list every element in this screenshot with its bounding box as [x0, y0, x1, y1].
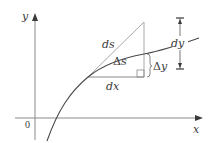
dy-label: dy: [171, 37, 185, 50]
x-axis-label: x: [193, 123, 200, 136]
curve: [47, 38, 199, 141]
dy-top-arrow-icon: [178, 19, 182, 24]
delta-y-brace: [147, 54, 152, 77]
delta-y-label: Δy: [153, 60, 168, 73]
x-axis: [15, 115, 203, 121]
arc-length-differential-diagram: x y 0 dy ds Δs Δy dx: [0, 0, 214, 143]
right-angle-marker: [137, 70, 144, 77]
delta-y-var: y: [160, 60, 168, 73]
ds-label: ds: [102, 38, 115, 51]
dy-bottom-arrow-icon: [178, 63, 182, 68]
y-axis-arrow-icon: [32, 13, 38, 21]
tangent-line: [88, 22, 144, 77]
x-axis-arrow-icon: [195, 115, 203, 121]
delta-s-label: Δs: [113, 55, 127, 68]
dx-label: dx: [106, 80, 120, 93]
origin-label: 0: [25, 119, 30, 130]
delta-y-symbol: Δ: [153, 60, 161, 73]
y-axis-label: y: [21, 10, 29, 23]
delta-s-symbol: Δ: [113, 55, 121, 68]
delta-s-var: s: [121, 55, 127, 68]
y-axis: [32, 13, 38, 140]
